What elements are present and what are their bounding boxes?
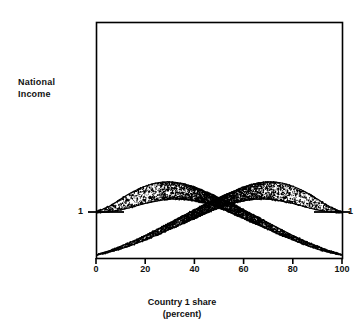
plot-frame xyxy=(97,23,343,259)
chart-figure: National Income 1 1 020406080100 Country… xyxy=(0,0,364,333)
x-axis-tick-label: 40 xyxy=(189,264,199,274)
x-axis-tick-label: 80 xyxy=(288,264,298,274)
x-axis-tick-label: 60 xyxy=(239,264,249,274)
x-axis-tick-label: 100 xyxy=(334,264,349,274)
x-axis-tick-label: 20 xyxy=(140,264,150,274)
x-axis-tick-label: 0 xyxy=(93,264,98,274)
plot-canvas xyxy=(0,0,364,333)
x-axis-label: Country 1 share (percent) xyxy=(0,296,364,320)
